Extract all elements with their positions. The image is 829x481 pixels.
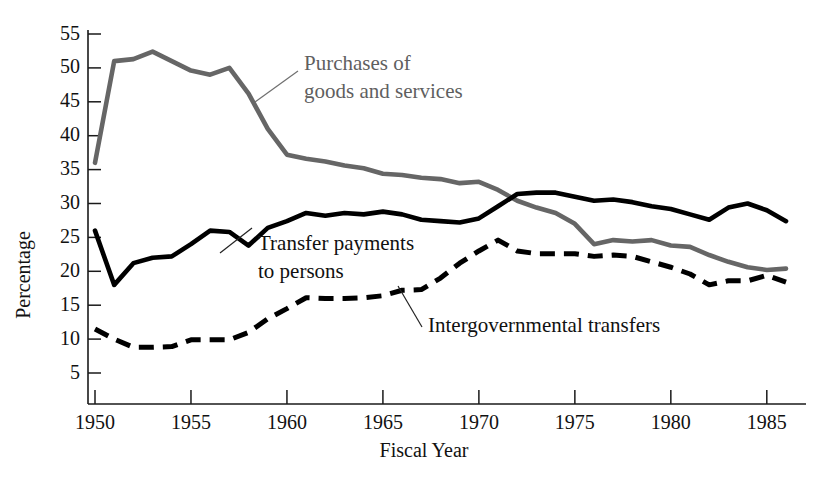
- y-tick-label: 15: [60, 293, 80, 315]
- x-tick-label: 1980: [651, 411, 691, 433]
- y-tick-label: 10: [60, 327, 80, 349]
- y-axis-title: Percentage: [12, 231, 35, 319]
- y-tick-label: 50: [60, 55, 80, 77]
- annotation-transfers-line1: Transfer payments: [258, 231, 414, 255]
- y-tick-label: 45: [60, 89, 80, 111]
- annotation-purchases: Purchases of goods and services: [255, 51, 463, 103]
- x-tick-label: 1955: [171, 411, 211, 433]
- y-tick-label: 25: [60, 225, 80, 247]
- y-tick-label: 5: [70, 361, 80, 383]
- annotation-transfers-line2: to persons: [258, 259, 344, 283]
- y-tick-label: 55: [60, 22, 80, 44]
- x-tick-label: 1960: [267, 411, 307, 433]
- x-tick-label: 1965: [363, 411, 403, 433]
- annotation-transfers: Transfer payments to persons: [220, 228, 414, 283]
- y-tick-label: 30: [60, 191, 80, 213]
- x-tick-label: 1950: [75, 411, 115, 433]
- x-axis-title: Fiscal Year: [380, 439, 469, 461]
- figure-container: 510152025303540455055 195019551960196519…: [0, 0, 829, 481]
- x-tick-label: 1985: [747, 411, 787, 433]
- x-axis-ticks: 19501955196019651970197519801985: [75, 390, 787, 433]
- y-tick-label: 40: [60, 123, 80, 145]
- y-axis-ticks: 510152025303540455055: [60, 22, 101, 383]
- annotation-purchases-line1: Purchases of: [304, 51, 411, 75]
- leader-line-purchases: [255, 71, 298, 102]
- annotation-intergov-line1: Intergovernmental transfers: [428, 313, 660, 337]
- x-tick-label: 1975: [555, 411, 595, 433]
- annotation-intergov: Intergovernmental transfers: [398, 286, 660, 337]
- y-tick-label: 35: [60, 157, 80, 179]
- x-tick-label: 1970: [459, 411, 499, 433]
- annotation-purchases-line2: goods and services: [304, 79, 463, 103]
- y-tick-label: 20: [60, 259, 80, 281]
- line-chart: 510152025303540455055 195019551960196519…: [0, 0, 829, 481]
